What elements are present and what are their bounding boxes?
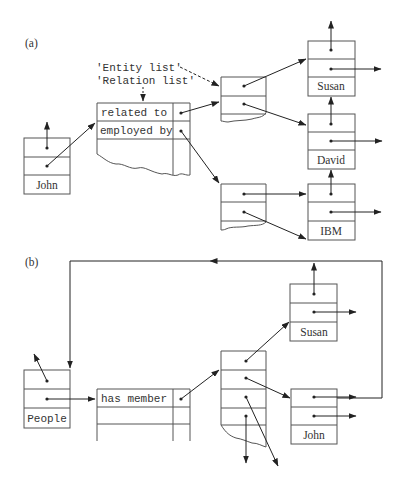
relation-table-b: has member [97, 389, 190, 441]
entity-name: John [303, 429, 325, 441]
entity-name: David [317, 154, 345, 166]
panel-b-label: (b) [25, 256, 39, 269]
semantic-network-diagram: (a) 'Entity list' 'Relation list' John r… [0, 0, 405, 487]
arrow-to-susan [244, 59, 306, 86]
entity-name: Susan [317, 80, 345, 92]
arrow-to-people [70, 261, 210, 368]
list-node-employed-by [221, 184, 266, 230]
arrow-to-susan-b [246, 322, 289, 361]
list-node-related-to [221, 77, 266, 122]
panel-a-label: (a) [25, 37, 38, 50]
list-node-has-member [221, 351, 266, 447]
relation-table-a: related to employed by [97, 103, 190, 175]
relation-row-employed-by: employed by [100, 125, 173, 137]
relation-row-related-to: related to [101, 107, 167, 119]
entity-name: Susan [300, 326, 328, 338]
relation-row-has-member: has member [101, 393, 167, 405]
entity-name: People [27, 413, 67, 425]
entity-list-annotation: 'Entity list' [96, 62, 182, 74]
entity-name: IBM [320, 225, 342, 237]
entity-name: John [36, 179, 58, 191]
arrow-to-member-list [181, 370, 219, 399]
relation-list-annotation: 'Relation list' [96, 75, 195, 87]
